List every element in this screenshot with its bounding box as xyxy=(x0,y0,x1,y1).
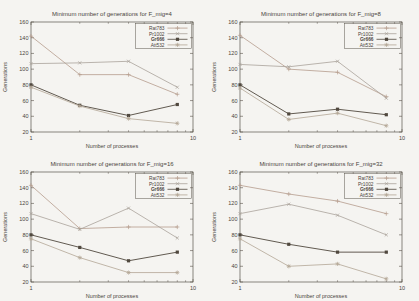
legend-label-Att532: Att532 xyxy=(151,43,165,48)
point-marker-plus xyxy=(175,92,179,96)
point-marker-square xyxy=(176,188,179,191)
chart-fmig4: 20406080100120140160110Rat783Pr1002Gr666… xyxy=(0,0,209,150)
chart-cell-fmig32: 20406080100120140160110Rat783Pr1002Gr666… xyxy=(209,150,418,300)
point-marker-asterisk xyxy=(384,193,388,197)
point-marker-square xyxy=(127,259,130,262)
y-tick-label: 100 xyxy=(228,66,237,72)
point-marker-asterisk xyxy=(175,193,179,197)
y-tick-label: 140 xyxy=(19,35,28,41)
point-marker-plus xyxy=(335,70,339,74)
y-axis-label: Generations xyxy=(211,212,217,242)
point-marker-plus xyxy=(175,225,179,229)
point-marker-asterisk xyxy=(384,124,388,128)
point-marker-square xyxy=(176,251,179,254)
point-marker-plus xyxy=(287,192,291,196)
y-tick-label: 100 xyxy=(19,216,28,222)
point-marker-square xyxy=(287,112,290,115)
y-tick-label: 140 xyxy=(228,35,237,41)
x-tick-label: 1 xyxy=(238,285,241,291)
series-line-Att532 xyxy=(240,88,386,126)
legend-label-Rat783: Rat783 xyxy=(358,26,374,31)
legend-label-Att532: Att532 xyxy=(151,193,165,198)
x-axis-label: Number of processes xyxy=(86,293,139,299)
y-tick-label: 80 xyxy=(231,82,237,88)
x-tick-label: 10 xyxy=(399,135,405,141)
point-marker-square xyxy=(385,188,388,191)
y-axis-label: Generations xyxy=(2,62,8,92)
y-tick-label: 120 xyxy=(228,50,237,56)
point-marker-square xyxy=(287,243,290,246)
point-marker-asterisk xyxy=(335,111,339,115)
point-marker-square xyxy=(29,233,32,236)
plot-border xyxy=(31,22,193,132)
y-tick-label: 160 xyxy=(228,19,237,25)
series-line-Gr666 xyxy=(240,235,386,252)
series-line-Pr1002 xyxy=(240,61,386,98)
x-axis-label: Number of processes xyxy=(86,143,139,149)
chart-fmig16: 20406080100120140160110Rat783Pr1002Gr666… xyxy=(0,150,209,300)
x-tick-label: 10 xyxy=(190,285,196,291)
point-marker-asterisk xyxy=(175,121,179,125)
point-marker-plus xyxy=(126,225,130,229)
point-marker-plus xyxy=(175,176,179,180)
series-line-Gr666 xyxy=(31,235,177,261)
chart-fmig32: 20406080100120140160110Rat783Pr1002Gr666… xyxy=(209,150,418,300)
point-marker-plus xyxy=(384,176,388,180)
plot-border xyxy=(240,172,402,282)
point-marker-plus xyxy=(175,26,179,30)
legend-label-Pr1002: Pr1002 xyxy=(149,182,165,187)
point-marker-asterisk xyxy=(384,277,388,281)
y-tick-label: 140 xyxy=(228,185,237,191)
y-tick-label: 60 xyxy=(22,98,28,104)
x-tick-label: 1 xyxy=(29,135,32,141)
y-tick-label: 140 xyxy=(19,185,28,191)
y-tick-label: 100 xyxy=(228,216,237,222)
point-marker-cross xyxy=(176,86,179,89)
legend-label-Att532: Att532 xyxy=(360,43,374,48)
point-marker-asterisk xyxy=(238,237,242,241)
y-tick-label: 80 xyxy=(22,82,28,88)
point-marker-asterisk xyxy=(287,117,291,121)
chart-fmig8: 20406080100120140160110Rat783Pr1002Gr666… xyxy=(209,0,418,150)
point-marker-cross xyxy=(385,233,388,236)
chart-cell-fmig4: 20406080100120140160110Rat783Pr1002Gr666… xyxy=(0,0,209,150)
y-tick-label: 160 xyxy=(228,169,237,175)
chart-cell-fmig8: 20406080100120140160110Rat783Pr1002Gr666… xyxy=(209,0,418,150)
point-marker-plus xyxy=(238,183,242,187)
series-line-Att532 xyxy=(240,239,386,279)
y-axis-label: Generations xyxy=(2,212,8,242)
series-line-Pr1002 xyxy=(31,208,177,238)
point-marker-plus xyxy=(335,199,339,203)
point-marker-square xyxy=(385,251,388,254)
point-marker-asterisk xyxy=(175,270,179,274)
legend-label-Gr666: Gr666 xyxy=(360,37,374,42)
y-tick-label: 160 xyxy=(19,169,28,175)
charts-grid: 20406080100120140160110Rat783Pr1002Gr666… xyxy=(0,0,418,300)
point-marker-square xyxy=(336,251,339,254)
y-tick-label: 40 xyxy=(231,113,237,119)
point-marker-square xyxy=(385,38,388,41)
point-marker-square xyxy=(78,246,81,249)
y-tick-label: 40 xyxy=(22,263,28,269)
chart-title: Minimum number of generations for F_mig=… xyxy=(261,11,382,17)
legend-label-Rat783: Rat783 xyxy=(149,176,165,181)
y-tick-label: 60 xyxy=(231,98,237,104)
legend-label-Att532: Att532 xyxy=(360,193,374,198)
y-tick-label: 60 xyxy=(231,248,237,254)
y-tick-label: 20 xyxy=(22,129,28,135)
point-marker-asterisk xyxy=(238,86,242,90)
point-marker-cross xyxy=(176,236,179,239)
point-marker-plus xyxy=(384,26,388,30)
y-tick-label: 120 xyxy=(228,200,237,206)
scanned-figure-page: 20406080100120140160110Rat783Pr1002Gr666… xyxy=(0,0,419,301)
legend-label-Rat783: Rat783 xyxy=(358,176,374,181)
series-line-Att532 xyxy=(31,87,177,123)
y-tick-label: 160 xyxy=(19,19,28,25)
point-marker-asterisk xyxy=(78,256,82,260)
y-tick-label: 80 xyxy=(231,232,237,238)
point-marker-square xyxy=(176,103,179,106)
y-tick-label: 20 xyxy=(22,279,28,285)
legend-label-Pr1002: Pr1002 xyxy=(358,32,374,37)
series-line-Gr666 xyxy=(31,85,177,116)
x-tick-label: 10 xyxy=(399,285,405,291)
